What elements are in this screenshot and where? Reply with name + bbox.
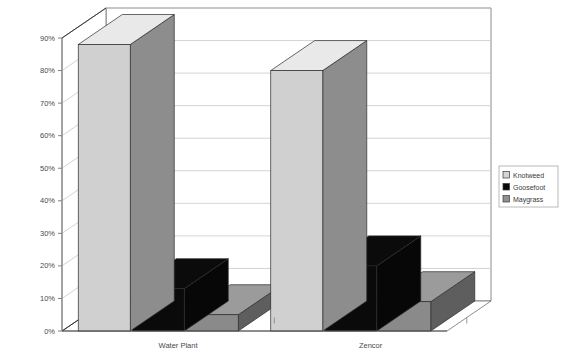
bar xyxy=(271,41,367,331)
y-tick-label: 70% xyxy=(40,99,55,108)
y-tick-label: 60% xyxy=(40,131,55,140)
legend: KnotweedGoosefootMaygrass xyxy=(499,166,558,207)
y-tick-label: 0% xyxy=(44,327,55,336)
x-category-label: Zencor xyxy=(359,341,383,350)
y-tick-label: 90% xyxy=(40,34,55,43)
chart-container: 0%10%20%30%40%50%60%70%80%90%Water Plant… xyxy=(0,0,568,361)
x-category-label: Water Plant xyxy=(159,341,199,350)
bar-front-face xyxy=(271,71,323,331)
legend-swatch xyxy=(503,184,510,191)
bar-side-face xyxy=(130,15,174,331)
y-tick-label: 50% xyxy=(40,164,55,173)
y-axis-ticks: 0%10%20%30%40%50%60%70%80%90% xyxy=(40,34,62,336)
bar-chart-3d: 0%10%20%30%40%50%60%70%80%90%Water Plant… xyxy=(0,0,568,361)
bar-side-face xyxy=(323,41,367,331)
legend-item-label: Goosefoot xyxy=(513,184,545,191)
y-tick-label: 30% xyxy=(40,229,55,238)
legend-swatch xyxy=(503,172,510,179)
bar-front-face xyxy=(78,45,130,331)
y-tick-label: 20% xyxy=(40,261,55,270)
bar xyxy=(78,15,174,331)
legend-item-label: Maygrass xyxy=(513,196,544,204)
y-tick-label: 40% xyxy=(40,196,55,205)
y-tick-label: 10% xyxy=(40,294,55,303)
legend-swatch xyxy=(503,196,510,203)
y-tick-label: 80% xyxy=(40,66,55,75)
legend-item-label: Knotweed xyxy=(513,172,544,179)
